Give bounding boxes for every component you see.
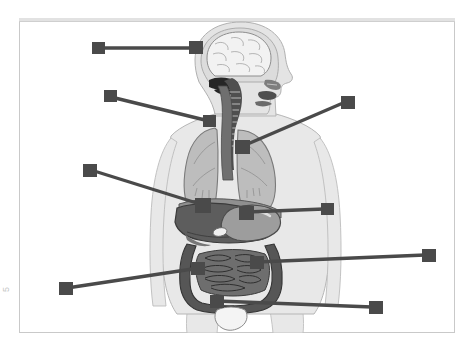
margin-page-mark: 5 [0,282,14,292]
organ-bladder [215,307,247,330]
leader-brain[interactable] [92,41,203,54]
organ-brain [207,32,271,76]
page-canvas: 5 [0,0,470,348]
anatomy-diagram [19,18,455,333]
